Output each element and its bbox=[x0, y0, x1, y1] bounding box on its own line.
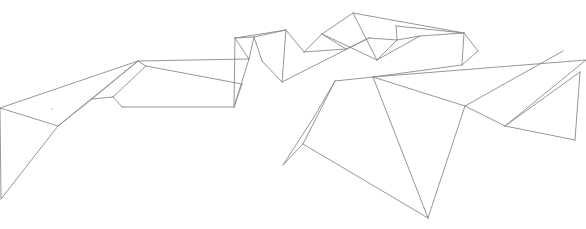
mesh-edge bbox=[346, 38, 369, 49]
mesh-edge bbox=[465, 51, 563, 106]
mesh-edge bbox=[138, 59, 249, 61]
mesh-edge bbox=[575, 72, 580, 140]
mesh-edge bbox=[373, 77, 465, 106]
mesh-edge bbox=[353, 13, 377, 60]
mesh-edge bbox=[254, 37, 262, 61]
mesh-edge bbox=[0, 61, 138, 108]
mesh-edge bbox=[322, 34, 346, 49]
mesh-edge bbox=[283, 144, 303, 165]
mesh-edge bbox=[462, 33, 464, 65]
stray-dot bbox=[51, 108, 53, 110]
mesh-edge bbox=[304, 34, 322, 52]
mesh-edge bbox=[113, 97, 122, 107]
mesh-edge bbox=[505, 60, 586, 126]
mesh-edge bbox=[262, 61, 282, 82]
mesh-edge bbox=[505, 72, 580, 126]
mesh-edge bbox=[146, 66, 242, 84]
mesh-edge bbox=[353, 13, 464, 33]
mesh-edge bbox=[92, 97, 113, 99]
mesh-edge bbox=[138, 61, 146, 66]
mesh-edge bbox=[335, 77, 373, 81]
mesh-edge bbox=[322, 13, 353, 34]
mesh-edge bbox=[428, 106, 465, 218]
mesh-edge bbox=[1, 126, 58, 199]
mesh-edge bbox=[282, 30, 286, 82]
mesh-edge bbox=[303, 144, 428, 218]
mesh-edge bbox=[505, 126, 575, 140]
mesh-edge bbox=[373, 60, 586, 77]
mesh-edge bbox=[420, 33, 464, 36]
mesh-wireframe-canvas bbox=[0, 0, 586, 229]
mesh-edge bbox=[58, 99, 92, 126]
mesh-edge bbox=[0, 108, 1, 199]
mesh-edge bbox=[465, 106, 505, 126]
mesh-edge bbox=[373, 77, 428, 218]
mesh-edges bbox=[0, 13, 586, 218]
mesh-edge bbox=[369, 38, 397, 40]
mesh-edge bbox=[464, 33, 478, 51]
mesh-edge bbox=[249, 37, 254, 59]
mesh-edge bbox=[234, 38, 235, 107]
mesh-edge bbox=[113, 66, 146, 97]
mesh-edge bbox=[283, 117, 314, 165]
mesh-edge bbox=[286, 30, 304, 52]
mesh-edge bbox=[304, 49, 346, 52]
mesh-edge bbox=[396, 26, 397, 40]
mesh-edge bbox=[235, 38, 249, 59]
mesh-edge bbox=[235, 30, 286, 38]
mesh-edge bbox=[462, 51, 478, 65]
mesh-edge bbox=[0, 108, 58, 126]
mesh-edge bbox=[303, 81, 335, 144]
mesh-edge bbox=[234, 84, 242, 107]
